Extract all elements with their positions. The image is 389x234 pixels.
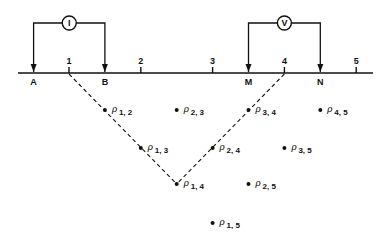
rho-subscript: 1, 2 bbox=[119, 108, 133, 117]
station-label: 5 bbox=[354, 56, 359, 66]
rho-point: ρ3, 4 bbox=[247, 102, 277, 117]
rho-label: ρ bbox=[326, 102, 332, 114]
rho-point: ρ2, 3 bbox=[175, 102, 205, 117]
electrode-n-label: N bbox=[317, 77, 324, 87]
rho-point: ρ1, 3 bbox=[139, 140, 169, 155]
rho-point: ρ1, 5 bbox=[211, 215, 241, 230]
rho-subscript: 1, 5 bbox=[227, 221, 241, 230]
rho-point: ρ1, 2 bbox=[103, 102, 133, 117]
data-point-dot bbox=[318, 108, 322, 112]
data-point-dot bbox=[139, 146, 143, 150]
rho-subscript: 3, 5 bbox=[298, 146, 312, 155]
construction-line bbox=[177, 74, 285, 184]
rho-subscript: 1, 3 bbox=[155, 146, 169, 155]
rho-subscript: 3, 4 bbox=[263, 108, 277, 117]
rho-label: ρ bbox=[147, 140, 153, 152]
station-label: 1 bbox=[66, 56, 71, 66]
pseudosection-diagram: 12345 ABMN IV ρ1, 2ρ2, 3ρ3, 4ρ4, 5ρ1, 3ρ… bbox=[0, 0, 389, 234]
data-point-dot bbox=[175, 108, 179, 112]
rho-label: ρ bbox=[183, 176, 189, 188]
electrode-b-label: B bbox=[102, 77, 109, 87]
rho-subscript: 2, 4 bbox=[227, 146, 241, 155]
rho-label: ρ bbox=[290, 140, 296, 152]
rho-point: ρ4, 5 bbox=[318, 102, 348, 117]
wire bbox=[76, 23, 105, 72]
data-point-dot bbox=[211, 146, 215, 150]
electrode-arrow-icon bbox=[102, 64, 108, 72]
wire bbox=[249, 23, 278, 72]
rho-point: ρ2, 4 bbox=[211, 140, 241, 155]
data-point-dot bbox=[175, 182, 179, 186]
voltage-meter-symbol: V bbox=[281, 18, 287, 28]
station-label: 4 bbox=[282, 56, 287, 66]
rho-label: ρ bbox=[219, 215, 225, 227]
rho-point: ρ3, 5 bbox=[282, 140, 312, 155]
data-point-dot bbox=[247, 182, 251, 186]
rho-subscript: 1, 4 bbox=[191, 182, 205, 191]
data-point-dot bbox=[247, 108, 251, 112]
wire bbox=[34, 23, 63, 72]
rho-label: ρ bbox=[183, 102, 189, 114]
rho-label: ρ bbox=[255, 102, 261, 114]
rho-subscript: 2, 3 bbox=[191, 108, 205, 117]
station-label: 3 bbox=[210, 56, 215, 66]
station-label: 2 bbox=[138, 56, 143, 66]
rho-label: ρ bbox=[111, 102, 117, 114]
wire bbox=[291, 23, 320, 72]
rho-subscript: 4, 5 bbox=[334, 108, 348, 117]
data-point-dot bbox=[103, 108, 107, 112]
electrode-arrow-icon bbox=[246, 64, 252, 72]
data-point-dot bbox=[211, 221, 215, 225]
data-point-dot bbox=[282, 146, 286, 150]
rho-subscript: 2, 5 bbox=[263, 182, 277, 191]
rho-point: ρ2, 5 bbox=[247, 176, 277, 191]
electrode-m-label: M bbox=[245, 77, 253, 87]
electrode-arrow-icon bbox=[317, 64, 323, 72]
rho-point: ρ1, 4 bbox=[175, 176, 205, 191]
current-meter-symbol: I bbox=[68, 18, 71, 28]
construction-line bbox=[69, 74, 177, 184]
electrode-arrow-icon bbox=[31, 64, 37, 72]
rho-label: ρ bbox=[219, 140, 225, 152]
rho-label: ρ bbox=[255, 176, 261, 188]
electrode-a-label: A bbox=[30, 77, 37, 87]
